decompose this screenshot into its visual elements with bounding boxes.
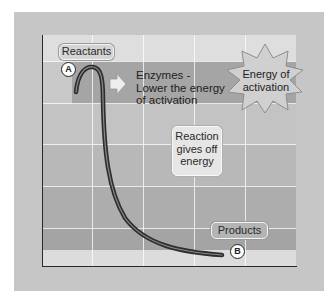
products-label: Products: [211, 222, 268, 239]
reactants-label: Reactants: [59, 44, 114, 60]
enzymes-annotation: Enzymes - Lower the energy of activation: [136, 69, 225, 107]
marker-a: A: [61, 62, 76, 77]
activation-line-1: Energy of: [236, 68, 296, 81]
enzymes-line-3: of activation: [136, 94, 225, 107]
marker-b: B: [230, 244, 245, 259]
energy-curve: [0, 0, 335, 299]
activation-line-2: activation: [236, 81, 296, 94]
reaction-line-2: gives off: [173, 143, 221, 156]
products-label-text: Products: [218, 224, 261, 236]
reaction-line-3: energy: [173, 155, 221, 168]
marker-a-text: A: [65, 64, 72, 74]
right-arrow-icon: [110, 74, 126, 94]
activation-energy-label: Energy of activation: [236, 68, 296, 94]
reactants-label-text: Reactants: [62, 45, 112, 57]
enzymes-line-1: Enzymes -: [136, 69, 225, 82]
enzymes-line-2: Lower the energy: [136, 82, 225, 95]
marker-b-text: B: [234, 246, 241, 256]
reaction-gives-off-energy-label: Reaction gives off energy: [172, 126, 222, 176]
reaction-line-1: Reaction: [173, 130, 221, 143]
